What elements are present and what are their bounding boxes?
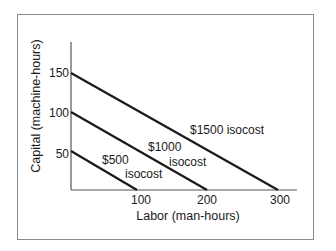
x-axis-label: Labor (man-hours) xyxy=(136,209,240,223)
x-tick-200: 200 xyxy=(197,193,217,207)
isocost-chart: 150 100 50 100 200 300 Labor (man-hours)… xyxy=(0,0,336,251)
y-tick-50: 50 xyxy=(56,147,70,161)
x-tick-100: 100 xyxy=(131,193,151,207)
y-axis-label: Capital (machine-hours) xyxy=(29,39,43,172)
label-500-line1: $500 xyxy=(102,153,129,167)
label-1000-line2: isocost xyxy=(169,155,207,169)
label-1500-isocost: $1500 isocost xyxy=(190,123,265,137)
x-tick-300: 300 xyxy=(270,193,290,207)
y-tick-150: 150 xyxy=(49,66,69,80)
label-500-line2: isocost xyxy=(125,167,163,181)
y-tick-100: 100 xyxy=(49,106,69,120)
label-1000-line1: $1000 xyxy=(148,140,182,154)
